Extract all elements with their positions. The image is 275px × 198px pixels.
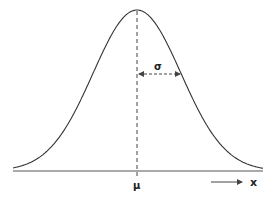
bell-curve bbox=[13, 10, 263, 168]
x-axis-label: x bbox=[250, 176, 257, 189]
normal-distribution-diagram: σ μ x bbox=[0, 0, 275, 198]
mean-label: μ bbox=[133, 180, 141, 191]
sigma-label: σ bbox=[154, 61, 162, 72]
